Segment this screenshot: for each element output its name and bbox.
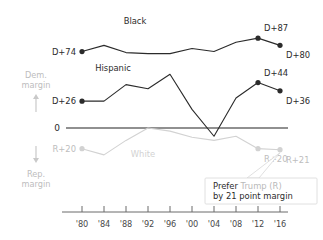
series-label-black: Black: [124, 16, 147, 26]
series-black: BlackD+74D+87D+80: [52, 16, 310, 60]
rep-margin-arrowhead-icon: [33, 158, 39, 163]
x-tick-label-04[interactable]: '04: [208, 219, 221, 229]
series-hispanic: HispanicD+26D+44D+36: [52, 63, 310, 136]
data-point-black-12[interactable]: [255, 36, 260, 41]
series-line-white: [82, 128, 280, 155]
rep-margin-annotation: Rep. margin: [22, 146, 51, 189]
dem-margin-label-line2: margin: [22, 80, 51, 90]
dem-margin-annotation: Dem. margin: [22, 70, 51, 112]
data-point-black-16[interactable]: [277, 43, 282, 48]
series-line-hispanic: [82, 74, 280, 136]
data-point-hispanic-16[interactable]: [277, 88, 282, 93]
zero-axis-label: 0: [54, 123, 60, 133]
data-point-white-16[interactable]: [277, 147, 282, 152]
value-label-hispanic-16: D+36: [286, 96, 310, 106]
x-tick-label-92[interactable]: '92: [142, 219, 155, 229]
race-vote-margin-chart: Dem. margin Rep. margin 0 BlackD+74D+87D…: [0, 0, 323, 240]
data-point-hispanic-80[interactable]: [79, 99, 84, 104]
series-layer: BlackD+74D+87D+80HispanicD+26D+44D+36Whi…: [52, 16, 310, 165]
x-tick-label-00[interactable]: '00: [186, 219, 199, 229]
chart-svg: Dem. margin Rep. margin 0 BlackD+74D+87D…: [0, 0, 323, 240]
data-point-white-80[interactable]: [79, 146, 84, 151]
rep-margin-label-line1: Rep.: [27, 169, 45, 179]
callout-line-1: Prefer Trump (R): [213, 181, 282, 191]
value-label-hispanic-80: D+26: [52, 96, 76, 106]
data-point-black-80[interactable]: [79, 49, 84, 54]
x-tick-label-88[interactable]: '88: [120, 219, 133, 229]
callout-line-2: by 21 point margin: [213, 191, 293, 201]
value-label-white-80: R+20: [53, 144, 77, 154]
x-tick-label-80[interactable]: '80: [76, 219, 89, 229]
data-point-hispanic-12[interactable]: [255, 80, 260, 85]
value-label-black-12: D+87: [264, 23, 288, 33]
value-label-black-16: D+80: [286, 50, 310, 60]
x-tick-label-84[interactable]: '84: [98, 219, 111, 229]
dem-margin-arrowhead-icon: [33, 94, 39, 99]
series-label-hispanic: Hispanic: [95, 63, 131, 73]
x-tick-label-96[interactable]: '96: [164, 219, 177, 229]
series-label-white: White: [131, 149, 155, 159]
value-label-black-80: D+74: [52, 47, 76, 57]
dem-margin-label-line1: Dem.: [25, 70, 47, 80]
x-tick-label-08[interactable]: '08: [230, 219, 243, 229]
data-point-white-12[interactable]: [255, 146, 260, 151]
x-tick-label-16[interactable]: '16: [274, 219, 287, 229]
series-line-black: [82, 38, 280, 53]
rep-margin-label-line2: margin: [22, 179, 51, 189]
value-label-white-16: R+21: [286, 155, 310, 165]
x-axis: '80'84'88'92'96'00'04'08'12'16: [62, 206, 288, 229]
x-tick-label-12[interactable]: '12: [252, 219, 265, 229]
value-label-hispanic-12: D+44: [264, 68, 288, 78]
